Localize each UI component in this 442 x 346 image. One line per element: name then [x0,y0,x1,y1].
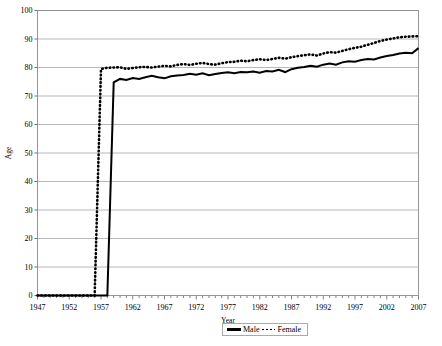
x-axis-tick-label: 1977 [220,303,236,312]
x-axis-tick-label: 1992 [315,303,331,312]
chart-legend: Male Female [222,323,308,336]
dotted-line-icon [261,328,275,331]
y-axis-tick-label: 30 [25,206,33,215]
y-axis-tick-label: 60 [25,120,33,129]
y-axis-tick-label: 100 [21,6,33,15]
x-axis-tick-label: 1957 [93,303,109,312]
solid-line-icon [227,328,241,331]
y-axis-tick-label: 70 [25,92,33,101]
y-axis-tick-label: 90 [25,35,33,44]
legend-label-female: Female [275,325,303,334]
y-axis-tick-label: 20 [25,234,33,243]
y-axis-tick-label: 50 [25,149,33,158]
x-axis-tick-label: 1947 [30,303,46,312]
y-axis-tick-label: 10 [25,263,33,272]
y-axis-title: Age [4,146,13,159]
series-line-female [38,36,419,295]
x-axis-tick-label: 1962 [125,303,141,312]
y-axis-tick-label: 0 [29,291,33,300]
legend-label-male: Male [241,325,261,334]
x-axis-tick-label: 1987 [284,303,300,312]
age-by-year-line-chart: 0102030405060708090100194719521957196219… [0,0,442,346]
chart-canvas: 0102030405060708090100194719521957196219… [0,0,442,346]
legend-entry-female: Female [261,325,303,334]
x-axis-tick-label: 2002 [379,303,395,312]
legend-entry-male: Male [227,325,261,334]
x-axis-tick-label: 1972 [188,303,204,312]
y-axis-tick-label: 80 [25,63,33,72]
x-axis-tick-label: 1952 [61,303,77,312]
x-axis-tick-label: 1982 [252,303,268,312]
x-axis-tick-label: 1967 [157,303,173,312]
x-axis-tick-label: 2007 [411,303,427,312]
x-axis-tick-label: 1997 [347,303,363,312]
y-axis-tick-label: 40 [25,177,33,186]
